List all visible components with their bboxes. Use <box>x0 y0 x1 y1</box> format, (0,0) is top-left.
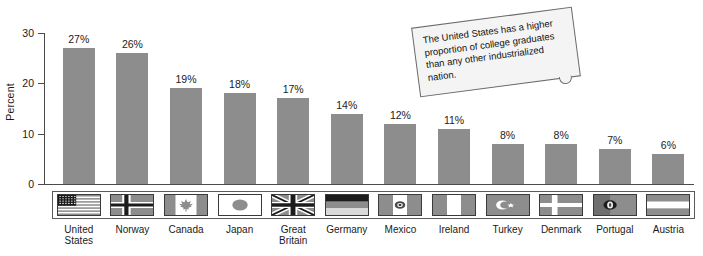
category-label: Austria <box>636 224 700 235</box>
flag-cell <box>539 194 583 216</box>
flag-great-britain-icon <box>271 194 315 216</box>
bar-value-label: 26% <box>102 39 162 50</box>
bar-chart: Percent 3020100 27%26%19%18%17%14%12%11%… <box>0 0 703 256</box>
bar <box>384 124 416 184</box>
y-tick: 20 <box>0 83 44 84</box>
bar-value-label: 27% <box>49 34 109 45</box>
flag-germany-icon <box>325 194 369 216</box>
category-label-line: States <box>47 235 111 246</box>
bar <box>438 129 470 184</box>
x-axis-baseline <box>44 184 694 185</box>
y-tick-label: 20 <box>4 78 34 88</box>
y-tick-mark <box>38 184 44 185</box>
flag-norway-icon <box>110 194 154 216</box>
bar-value-label: 11% <box>424 115 484 126</box>
y-tick-label: 30 <box>4 28 34 38</box>
category-label-line: Austria <box>636 224 700 235</box>
y-tick-mark <box>38 134 44 135</box>
y-axis-line <box>44 33 45 184</box>
bar <box>63 48 95 184</box>
bar <box>170 88 202 184</box>
flag-cell <box>325 194 369 216</box>
bar <box>492 144 524 184</box>
flag-cell <box>593 194 637 216</box>
bar-value-label: 19% <box>156 74 216 85</box>
flag-cell <box>57 194 101 216</box>
bar <box>277 98 309 184</box>
bar <box>224 93 256 184</box>
flag-strip <box>52 191 695 219</box>
flag-cell <box>164 194 208 216</box>
bar-value-label: 8% <box>531 130 591 141</box>
y-tick-mark <box>38 83 44 84</box>
bar-value-label: 17% <box>263 84 323 95</box>
callout-box: The United States has a higher proportio… <box>411 7 581 98</box>
bar-value-label: 7% <box>585 135 645 146</box>
bar <box>545 144 577 184</box>
category-label-line: Britain <box>261 235 325 246</box>
bar-value-label: 18% <box>210 79 270 90</box>
bar-value-label: 8% <box>478 130 538 141</box>
flag-cell <box>432 194 476 216</box>
flag-cell <box>271 194 315 216</box>
flag-austria-icon <box>646 194 690 216</box>
flag-cell <box>110 194 154 216</box>
bar <box>331 114 363 184</box>
bar <box>116 53 148 184</box>
callout-text: The United States has a higher proportio… <box>422 16 569 84</box>
flag-turkey-icon <box>486 194 530 216</box>
flag-mexico-icon <box>378 194 422 216</box>
y-tick-label: 0 <box>4 179 34 189</box>
bar <box>652 154 684 184</box>
flag-ireland-icon <box>432 194 476 216</box>
bar-value-label: 12% <box>370 110 430 121</box>
callout-tail <box>559 75 573 85</box>
y-tick: 10 <box>0 134 44 135</box>
flag-canada-icon <box>164 194 208 216</box>
flag-cell <box>218 194 262 216</box>
flag-cell <box>486 194 530 216</box>
bar <box>599 149 631 184</box>
bar-value-label: 6% <box>638 140 698 151</box>
y-tick-label: 10 <box>4 129 34 139</box>
y-tick-mark <box>38 33 44 34</box>
flag-japan-icon <box>218 194 262 216</box>
bar-value-label: 14% <box>317 100 377 111</box>
flag-portugal-icon <box>593 194 637 216</box>
clipped-top-text <box>36 0 336 3</box>
flag-united-states-icon <box>57 194 101 216</box>
y-tick: 30 <box>0 33 44 34</box>
flag-cell <box>378 194 422 216</box>
y-tick: 0 <box>0 184 44 185</box>
flag-cell <box>646 194 690 216</box>
flag-denmark-icon <box>539 194 583 216</box>
